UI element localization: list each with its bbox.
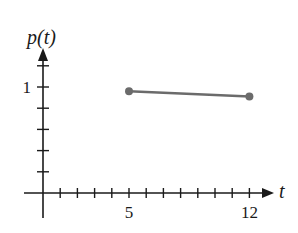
x-axis-label: t	[279, 180, 285, 202]
data-series	[125, 87, 253, 100]
x-axis-arrow-icon	[262, 188, 274, 198]
x-tick-label: 5	[125, 203, 134, 222]
y-axis-label: p(t)	[25, 26, 56, 49]
axes	[24, 48, 274, 218]
series-line	[129, 91, 249, 96]
line-chart: 5121 p(t) t	[0, 0, 298, 233]
data-point-marker	[125, 87, 133, 95]
x-tick-label: 12	[241, 203, 258, 222]
ticks: 5121	[23, 66, 258, 222]
y-tick-label: 1	[23, 78, 32, 97]
y-axis-arrow-icon	[38, 48, 48, 61]
data-point-marker	[245, 93, 253, 101]
